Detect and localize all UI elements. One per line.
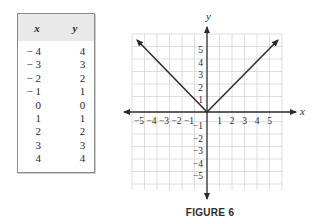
abs-value-left-ray bbox=[137, 40, 207, 112]
coordinate-graph: y x −5 −4 −3 −2 −1 1 2 3 4 5 1 2 3 4 5 −… bbox=[0, 0, 323, 224]
x-tick: 1 bbox=[217, 116, 222, 126]
y-tick: −1 bbox=[193, 121, 203, 131]
y-tick: 4 bbox=[198, 58, 203, 68]
x-tick: −4 bbox=[146, 116, 156, 126]
x-tick: −2 bbox=[171, 116, 181, 126]
x-axis-label: x bbox=[299, 105, 305, 117]
y-axis-label: y bbox=[205, 10, 211, 22]
y-tick: −2 bbox=[193, 134, 203, 144]
y-tick: −5 bbox=[193, 171, 203, 181]
figure-caption: FIGURE 6 bbox=[180, 207, 240, 218]
x-tick: −5 bbox=[134, 116, 144, 126]
y-tick: −4 bbox=[193, 159, 203, 169]
x-tick: 2 bbox=[230, 116, 235, 126]
y-tick: 3 bbox=[198, 70, 203, 80]
y-tick: 1 bbox=[198, 95, 203, 105]
x-tick: 4 bbox=[255, 116, 260, 126]
y-tick: −3 bbox=[193, 146, 203, 156]
y-tick: 2 bbox=[198, 83, 203, 93]
abs-value-right-ray bbox=[207, 40, 278, 112]
x-tick: 5 bbox=[267, 116, 272, 126]
x-tick: 3 bbox=[242, 116, 247, 126]
y-tick: 5 bbox=[198, 45, 203, 55]
x-tick: −3 bbox=[159, 116, 169, 126]
x-tick-labels: −5 −4 −3 −2 −1 1 2 3 4 5 bbox=[134, 116, 272, 126]
